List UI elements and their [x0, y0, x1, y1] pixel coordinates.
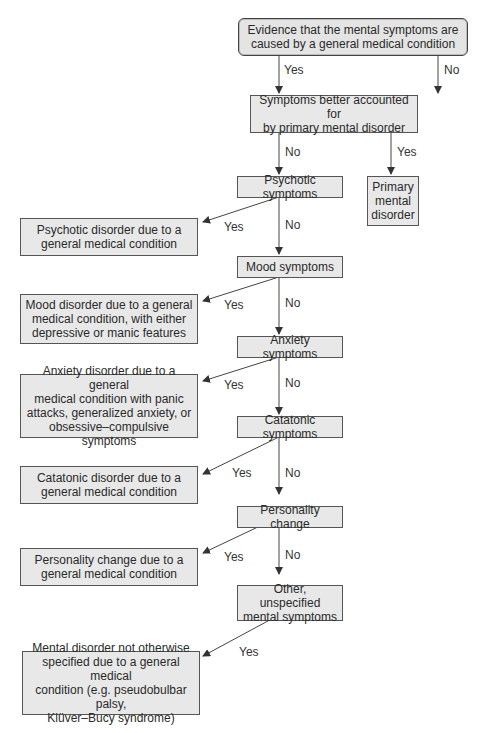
other-outcome-box: Mental disorder not otherwise specified … [22, 651, 200, 715]
label-yes-better: Yes [397, 145, 417, 159]
label-no-personality: No [285, 548, 300, 562]
catatonic-symptoms-box: Catatonic symptoms [237, 416, 343, 438]
other-outcome-text: Mental disorder not otherwise specified … [27, 641, 195, 725]
root-question-text: Evidence that the mental symptoms are ca… [248, 23, 459, 51]
better-accounted-text: Symptoms better accounted for by primary… [255, 93, 413, 135]
label-yes-catatonic: Yes [232, 466, 252, 480]
root-question-box: Evidence that the mental symptoms are ca… [238, 18, 468, 56]
anxiety-symptoms-box: Anxiety symptoms [237, 336, 343, 358]
personality-change-text: Personality change [242, 503, 338, 531]
mood-outcome-box: Mood disorder due to a general medical c… [20, 294, 198, 344]
label-no-anxiety: No [285, 376, 300, 390]
label-yes-anxiety: Yes [224, 378, 244, 392]
label-yes-mood: Yes [224, 298, 244, 312]
label-no-better: No [285, 145, 300, 159]
mood-symptoms-text: Mood symptoms [246, 260, 334, 274]
primary-mental-disorder-box: Primary mental disorder [367, 176, 419, 226]
other-symptoms-text: Other, unspecified mental symptoms [242, 582, 338, 624]
psychotic-symptoms-box: Psychotic symptoms [237, 176, 343, 198]
catatonic-outcome-box: Catatonic disorder due to a general medi… [20, 466, 198, 504]
anxiety-symptoms-text: Anxiety symptoms [242, 333, 338, 361]
better-accounted-box: Symptoms better accounted for by primary… [250, 95, 418, 133]
label-yes-personality: Yes [224, 550, 244, 564]
catatonic-outcome-text: Catatonic disorder due to a general medi… [37, 471, 181, 499]
other-symptoms-box: Other, unspecified mental symptoms [237, 585, 343, 621]
label-no-root: No [444, 63, 459, 77]
anxiety-outcome-text: Anxiety disorder due to a general medica… [25, 364, 193, 448]
label-yes-root: Yes [284, 63, 304, 77]
label-no-mood: No [285, 296, 300, 310]
primary-mental-disorder-text: Primary mental disorder [371, 180, 414, 222]
label-no-catatonic: No [285, 466, 300, 480]
catatonic-symptoms-text: Catatonic symptoms [242, 413, 338, 441]
label-yes-psychotic: Yes [224, 220, 244, 234]
personality-outcome-text: Personality change due to a general medi… [35, 553, 184, 581]
psychotic-symptoms-text: Psychotic symptoms [242, 173, 338, 201]
label-yes-other: Yes [239, 645, 259, 659]
anxiety-outcome-box: Anxiety disorder due to a general medica… [20, 374, 198, 438]
mood-outcome-text: Mood disorder due to a general medical c… [26, 298, 193, 340]
psychotic-outcome-box: Psychotic disorder due to a general medi… [20, 218, 198, 256]
psychotic-outcome-text: Psychotic disorder due to a general medi… [37, 223, 182, 251]
personality-outcome-box: Personality change due to a general medi… [20, 548, 198, 586]
personality-change-box: Personality change [237, 506, 343, 528]
mood-symptoms-box: Mood symptoms [237, 256, 343, 278]
label-no-psychotic: No [285, 218, 300, 232]
